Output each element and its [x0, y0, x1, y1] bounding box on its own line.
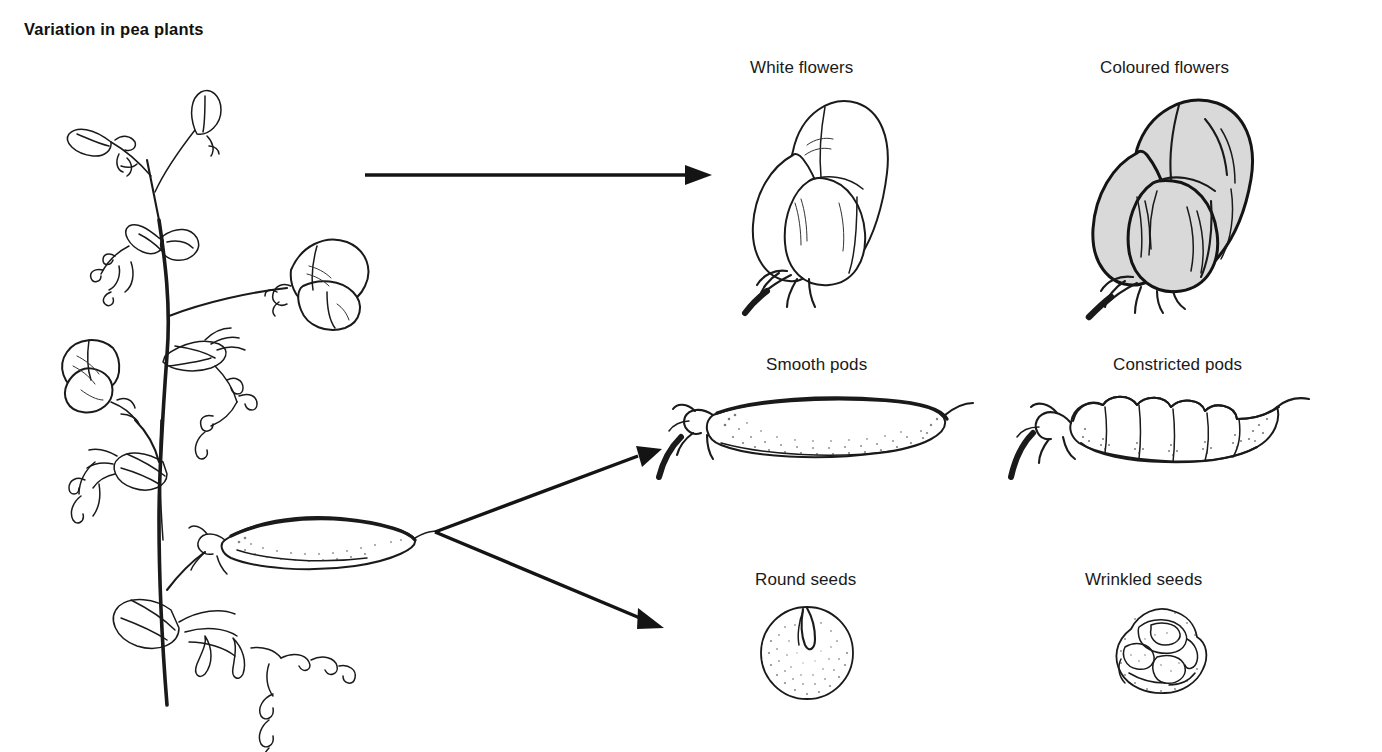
label-coloured-flowers: Coloured flowers — [1100, 58, 1229, 78]
pea-seed-wrinkled-icon — [1095, 595, 1225, 715]
pea-pod-smooth-icon — [655, 385, 975, 485]
page-title: Variation in pea plants — [24, 20, 204, 39]
pea-flower-coloured-icon — [1045, 85, 1285, 315]
pea-flower-white-icon — [705, 85, 935, 315]
arrow-to-pods — [435, 446, 662, 532]
label-round-seeds: Round seeds — [755, 570, 856, 590]
pea-seed-round-icon — [745, 595, 875, 715]
label-wrinkled-seeds: Wrinkled seeds — [1085, 570, 1202, 590]
label-smooth-pods: Smooth pods — [766, 355, 867, 375]
diagram-page: Variation in pea plants — [0, 0, 1382, 752]
pea-pod-constricted-icon — [1005, 385, 1335, 485]
label-white-flowers: White flowers — [750, 58, 853, 78]
label-constricted-pods: Constricted pods — [1113, 355, 1242, 375]
arrow-to-seeds — [435, 532, 664, 629]
arrow-to-flowers — [365, 165, 712, 185]
